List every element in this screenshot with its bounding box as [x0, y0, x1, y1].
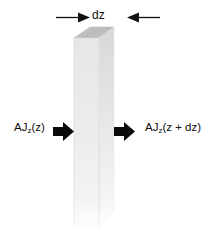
diagram-canvas: dz AJz(z) AJz(z + dz) — [0, 0, 209, 244]
flux-out-prefix: AJ — [145, 121, 158, 133]
flux-out-arrow — [114, 122, 135, 141]
flux-in-argument: (z) — [31, 121, 44, 133]
volume-element-slab — [70, 27, 120, 244]
dimension-arrow-left — [56, 13, 90, 23]
flux-in-label: AJz(z) — [14, 122, 45, 135]
dimension-arrow-right — [127, 13, 160, 23]
flux-in-arrow — [53, 122, 74, 141]
flux-out-label: AJz(z + dz) — [145, 122, 201, 135]
flux-in-prefix: AJ — [14, 121, 27, 133]
slab-bottom-fade — [70, 196, 120, 244]
dz-dimension-label: dz — [92, 9, 105, 21]
flux-out-argument: (z + dz) — [162, 121, 201, 133]
